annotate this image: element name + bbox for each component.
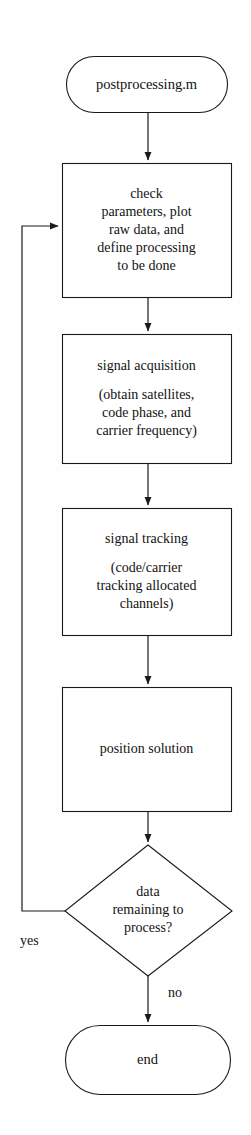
node-position-shape (63, 688, 232, 812)
node-decision-shape (65, 845, 232, 976)
node-acquisition-shape (63, 335, 232, 464)
node-check-shape (63, 164, 232, 298)
flowchart-shapes-layer (0, 0, 251, 1135)
node-tracking-shape (63, 509, 232, 636)
edge-decision-yes-loopback (22, 226, 65, 911)
flowchart-canvas: postprocessing.m check parameters, plot … (0, 0, 251, 1135)
node-start-shape (67, 57, 228, 113)
node-end-shape (66, 1026, 231, 1095)
